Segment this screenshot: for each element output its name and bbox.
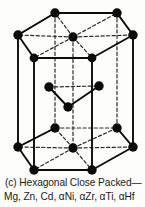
atom-top-right [128, 30, 137, 39]
hidden-edge-bottom-spoke-right [73, 147, 133, 148]
atom-bottom-front-right [87, 165, 96, 174]
atom-top-left [13, 30, 22, 39]
atom-mid-front [63, 102, 72, 111]
atom-mid-right [94, 81, 103, 90]
atoms-group [13, 8, 137, 174]
edge-bottom-back-left [18, 128, 55, 147]
figure-caption: (c) Hexagonal Close Packed— Mg, Zn, Cd, … [0, 176, 145, 203]
hidden-edge-bottom-spoke-back-right [73, 128, 117, 148]
atom-bottom-left [13, 142, 22, 151]
hidden-edge-top-spoke-front-left [34, 37, 73, 58]
hidden-edge-top-spoke-left [18, 35, 73, 37]
edge-top-front-right [92, 35, 133, 58]
atom-top-back-right [112, 8, 121, 17]
atom-bottom-front-left [29, 165, 38, 174]
hidden-edge-bottom-spoke-front-left [34, 148, 73, 170]
caption-line-structure-name: (c) Hexagonal Close Packed— [0, 176, 145, 190]
atom-bottom-center [68, 143, 77, 152]
hcp-unit-cell-diagram [0, 0, 145, 178]
atom-bottom-back [50, 123, 59, 132]
hidden-edge-top-spoke-right [73, 35, 133, 37]
atom-top-center [68, 32, 77, 41]
atom-top-front-left [30, 54, 39, 63]
hidden-edge-top-spoke-back-right [73, 13, 117, 37]
edge-bottom-front-right [92, 147, 133, 170]
edge-top-back-left [18, 13, 55, 35]
atom-top-back [50, 8, 59, 17]
caption-line-materials: Mg, Zn, Cd, αNi, αZr, αTi, αHf [0, 190, 145, 204]
atom-bottom-back-right [112, 123, 121, 132]
atom-mid-left [44, 82, 53, 91]
hcp-figure: (c) Hexagonal Close Packed— Mg, Zn, Cd, … [0, 0, 145, 207]
hidden-edge-bottom-spoke-left [18, 147, 73, 148]
atom-top-front-right [88, 54, 97, 63]
atom-bottom-right [128, 142, 137, 151]
